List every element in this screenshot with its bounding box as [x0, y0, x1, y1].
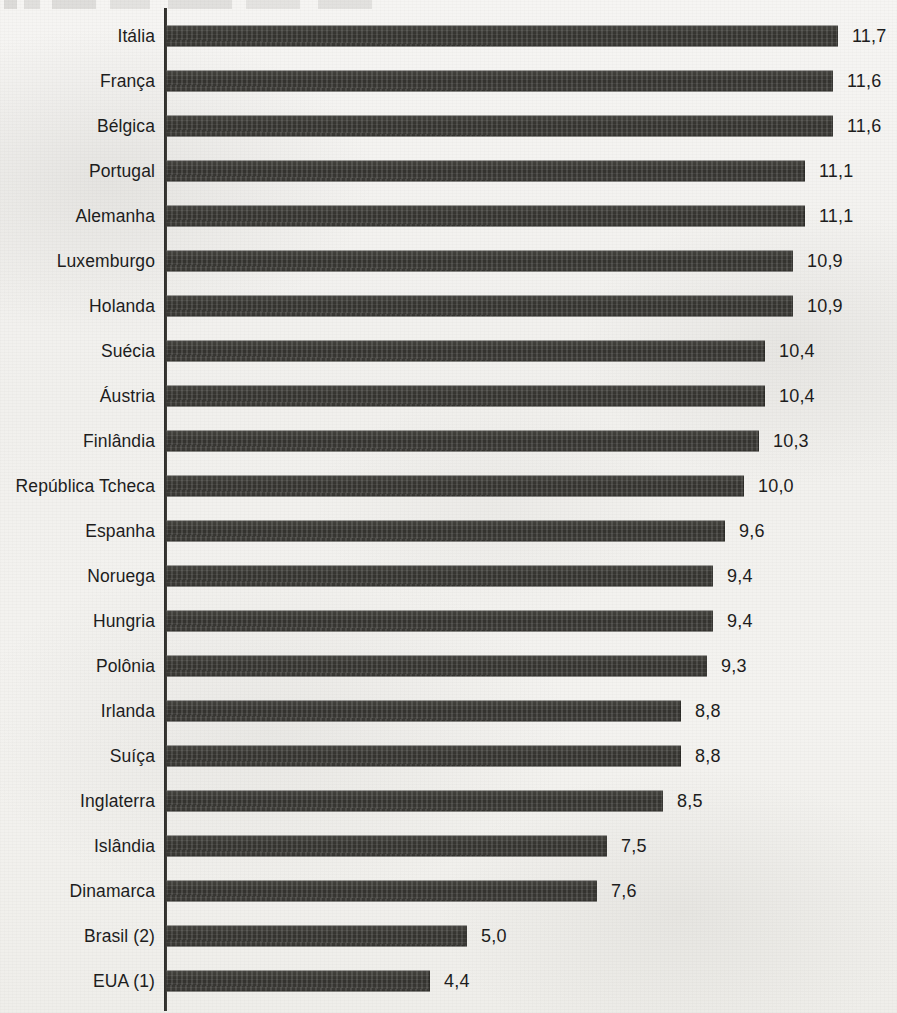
bar — [166, 610, 713, 631]
category-label: Áustria — [0, 385, 155, 406]
bar-row: Espanha9,6 — [0, 508, 897, 553]
bar — [166, 205, 805, 226]
bar-row: Alemanha11,1 — [0, 193, 897, 238]
value-label: 9,3 — [721, 655, 747, 676]
bar — [166, 880, 597, 901]
category-label: República Tcheca — [0, 475, 155, 496]
value-label: 8,8 — [695, 700, 721, 721]
category-label: Holanda — [0, 295, 155, 316]
bar — [166, 520, 725, 541]
bar-row: Finlândia10,3 — [0, 418, 897, 463]
bar-row: Inglaterra8,5 — [0, 778, 897, 823]
bar — [166, 250, 793, 271]
bar-row: Holanda10,9 — [0, 283, 897, 328]
bar — [166, 385, 765, 406]
value-label: 8,8 — [695, 745, 721, 766]
value-label: 11,7 — [852, 25, 887, 46]
bar-row: Luxemburgo10,9 — [0, 238, 897, 283]
bar — [166, 565, 713, 586]
bar-row: Polônia9,3 — [0, 643, 897, 688]
value-label: 10,9 — [807, 250, 843, 271]
bar — [166, 655, 707, 676]
bar-row: Áustria10,4 — [0, 373, 897, 418]
bar — [166, 475, 744, 496]
bar — [166, 25, 838, 46]
bar-row: França11,6 — [0, 58, 897, 103]
bar — [166, 340, 765, 361]
category-label: Luxemburgo — [0, 250, 155, 271]
value-label: 8,5 — [677, 790, 703, 811]
bar — [166, 835, 607, 856]
horizontal-bar-chart: Itália11,7França11,6Bélgica11,6Portugal1… — [0, 0, 897, 1013]
value-label: 10,0 — [758, 475, 794, 496]
category-label: Suíça — [0, 745, 155, 766]
category-label: França — [0, 70, 155, 91]
bar-row: Itália11,7 — [0, 13, 897, 58]
category-label: Itália — [0, 25, 155, 46]
category-label: Finlândia — [0, 430, 155, 451]
category-label: Espanha — [0, 520, 155, 541]
value-label: 7,5 — [621, 835, 647, 856]
category-label: Noruega — [0, 565, 155, 586]
value-label: 10,4 — [779, 385, 815, 406]
category-label: Suécia — [0, 340, 155, 361]
bar-row: Noruega9,4 — [0, 553, 897, 598]
bar-row: República Tcheca10,0 — [0, 463, 897, 508]
bar — [166, 70, 833, 91]
category-label: Portugal — [0, 160, 155, 181]
category-label: Dinamarca — [0, 880, 155, 901]
bar-row: Portugal11,1 — [0, 148, 897, 193]
bar-row: Irlanda8,8 — [0, 688, 897, 733]
bar-row: Bélgica11,6 — [0, 103, 897, 148]
value-label: 5,0 — [481, 925, 507, 946]
value-label: 9,4 — [727, 610, 753, 631]
value-label: 10,3 — [773, 430, 809, 451]
value-label: 11,1 — [819, 205, 854, 226]
bar — [166, 700, 681, 721]
category-label: Alemanha — [0, 205, 155, 226]
bar — [166, 970, 430, 991]
bar — [166, 115, 833, 136]
value-label: 9,6 — [739, 520, 765, 541]
bar-row: Brasil (2)5,0 — [0, 913, 897, 958]
category-label: Polônia — [0, 655, 155, 676]
category-label: EUA (1) — [0, 970, 155, 991]
bar — [166, 160, 805, 181]
value-label: 10,4 — [779, 340, 815, 361]
bar — [166, 745, 681, 766]
category-label: Brasil (2) — [0, 925, 155, 946]
value-label: 11,6 — [847, 70, 882, 91]
value-label: 11,1 — [819, 160, 854, 181]
value-label: 4,4 — [444, 970, 470, 991]
value-label: 11,6 — [847, 115, 882, 136]
bar-row: EUA (1)4,4 — [0, 958, 897, 1003]
bar — [166, 790, 663, 811]
bar — [166, 430, 759, 451]
bar-row: Islândia7,5 — [0, 823, 897, 868]
bar — [166, 295, 793, 316]
bar-row: Suíça8,8 — [0, 733, 897, 778]
bar-row: Suécia10,4 — [0, 328, 897, 373]
bar — [166, 925, 467, 946]
value-label: 10,9 — [807, 295, 843, 316]
category-label: Bélgica — [0, 115, 155, 136]
value-label: 7,6 — [611, 880, 637, 901]
bar-row: Dinamarca7,6 — [0, 868, 897, 913]
category-label: Hungria — [0, 610, 155, 631]
value-label: 9,4 — [727, 565, 753, 586]
category-label: Inglaterra — [0, 790, 155, 811]
category-label: Irlanda — [0, 700, 155, 721]
category-label: Islândia — [0, 835, 155, 856]
bar-row: Hungria9,4 — [0, 598, 897, 643]
